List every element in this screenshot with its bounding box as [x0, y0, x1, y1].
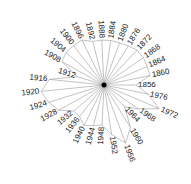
spoke [66, 52, 104, 85]
axis-label: 1972 [159, 105, 179, 121]
spoke [104, 50, 137, 85]
axis-label: 1924 [28, 98, 48, 112]
spoke [82, 40, 104, 85]
spoke [74, 85, 104, 111]
axis-label: 1892 [84, 21, 97, 41]
axis-label: 1920 [21, 87, 40, 98]
radar-chart: 1856186018641868187218761880188418881892… [0, 0, 191, 184]
axis-label: 1916 [29, 73, 48, 84]
spoke [84, 85, 104, 125]
axis-label: 1912 [57, 66, 77, 80]
spoke [73, 45, 104, 85]
axis-label: 1888 [97, 20, 107, 39]
axis-label: 1860 [151, 67, 171, 80]
center-hub [102, 83, 107, 88]
axis-label: 1856 [138, 80, 156, 89]
spoke [104, 85, 112, 134]
spoke [104, 41, 111, 85]
spoke [80, 85, 104, 117]
axis-label: 1952 [108, 136, 120, 155]
axis-label: 1976 [149, 90, 169, 103]
axis-label: 1948 [96, 126, 106, 145]
radar-chart-svg: 1856186018641868187218761880188418881892… [0, 0, 191, 184]
axis-label: 1956 [122, 143, 137, 163]
